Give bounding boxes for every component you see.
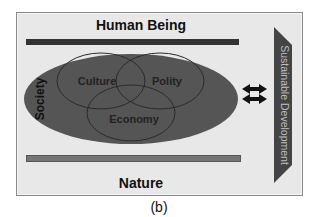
polity-label: Polity: [152, 75, 183, 87]
culture-label: Culture: [78, 75, 117, 87]
society-ellipse: [24, 54, 238, 144]
figure-caption: (b): [0, 199, 318, 215]
double-arrow-icon: [242, 84, 267, 104]
economy-label: Economy: [109, 113, 159, 125]
sustainable-development-label: Sustainable Development: [279, 45, 291, 165]
diagram-graphics: Culture Polity Economy Society Sustainab…: [0, 0, 318, 217]
society-label: Society: [33, 77, 47, 120]
